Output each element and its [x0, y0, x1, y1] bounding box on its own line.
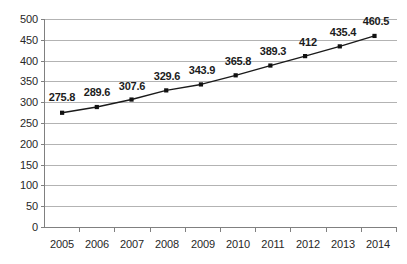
data-point-2010 [234, 73, 238, 77]
y-tick-label-450: 450 [0, 35, 38, 46]
y-tick-label-150: 150 [0, 160, 38, 171]
x-tick-label-2006: 2006 [79, 239, 115, 250]
data-label-2010: 365.8 [217, 56, 259, 67]
data-point-2014 [372, 34, 376, 38]
data-point-2007 [129, 97, 133, 101]
y-tick-label-400: 400 [0, 56, 38, 67]
x-tick-label-2014: 2014 [360, 239, 396, 250]
data-label-2012: 412 [287, 37, 329, 48]
y-tick-label-50: 50 [0, 201, 38, 212]
x-tick-label-2011: 2011 [255, 239, 291, 250]
x-tick-label-2007: 2007 [114, 239, 150, 250]
y-tick-label-250: 250 [0, 118, 38, 129]
data-point-2011 [268, 63, 272, 67]
y-tick-label-0: 0 [0, 222, 38, 233]
y-tick-label-500: 500 [0, 14, 38, 25]
x-tick-label-2013: 2013 [325, 239, 361, 250]
data-point-2008 [164, 88, 168, 92]
y-tick-label-100: 100 [0, 180, 38, 191]
y-tick-label-350: 350 [0, 76, 38, 87]
data-point-2012 [303, 54, 307, 58]
data-point-2013 [338, 44, 342, 48]
y-axis-ticks [41, 20, 45, 228]
line-chart: 500 450 400 350 300 250 200 150 100 50 0… [0, 0, 407, 264]
gridlines [45, 20, 397, 207]
x-tick-label-2009: 2009 [185, 239, 221, 250]
x-tick-label-2005: 2005 [44, 239, 80, 250]
data-label-2014: 460.5 [355, 16, 397, 27]
data-point-2009 [199, 82, 203, 86]
x-axis-ticks [80, 228, 397, 232]
x-tick-label-2012: 2012 [290, 239, 326, 250]
x-tick-label-2010: 2010 [220, 239, 256, 250]
data-label-2013: 435.4 [322, 27, 364, 38]
chart-canvas [0, 0, 407, 264]
y-tick-label-200: 200 [0, 139, 38, 150]
data-point-2005 [60, 111, 64, 115]
x-tick-label-2008: 2008 [149, 239, 185, 250]
y-tick-label-300: 300 [0, 97, 38, 108]
data-point-2006 [95, 105, 99, 109]
data-label-2007: 307.6 [111, 81, 153, 92]
